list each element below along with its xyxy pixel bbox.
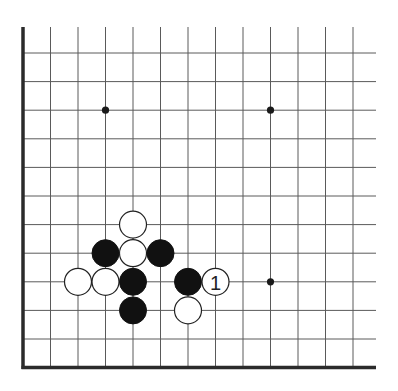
star-point: [102, 107, 109, 114]
black-stone: [147, 240, 174, 267]
black-stone-circle: [175, 268, 202, 295]
white-stone-circle: [120, 211, 147, 238]
black-stone: [175, 268, 202, 295]
white-stone-circle: [92, 268, 119, 295]
black-stone-circle: [120, 268, 147, 295]
star-point: [267, 107, 274, 114]
white-stone-circle: [175, 297, 202, 324]
white-stone-circle: [120, 240, 147, 267]
go-board: 1: [0, 0, 398, 391]
black-stone-circle: [92, 240, 119, 267]
white-stone-circle: [65, 268, 92, 295]
white-stone: [175, 297, 202, 324]
black-stone: [120, 297, 147, 324]
black-stone: [120, 268, 147, 295]
white-stone: [92, 268, 119, 295]
black-stone-circle: [147, 240, 174, 267]
white-stone: [65, 268, 92, 295]
star-point: [267, 278, 274, 285]
white-stone: 1: [202, 268, 229, 295]
stones-layer: 1: [65, 211, 230, 324]
white-stone: [120, 240, 147, 267]
move-number-label: 1: [210, 272, 221, 294]
black-stone: [92, 240, 119, 267]
black-stone-circle: [120, 297, 147, 324]
white-stone: [120, 211, 147, 238]
